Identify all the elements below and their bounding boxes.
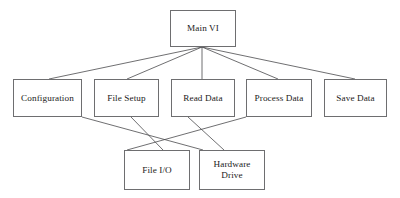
node-label-file-setup: File Setup <box>105 93 148 104</box>
node-configuration[interactable]: Configuration <box>13 79 82 117</box>
connector-process-data-to-file-io <box>127 117 246 150</box>
node-read-data[interactable]: Read Data <box>171 79 235 117</box>
node-file-setup[interactable]: File Setup <box>94 79 159 117</box>
node-label-file-io: File I/O <box>140 165 174 176</box>
node-hardware-drive[interactable]: Hardware Drive <box>199 150 265 190</box>
connector-main-vi-to-configuration <box>49 47 202 79</box>
node-save-data[interactable]: Save Data <box>324 79 387 117</box>
node-process-data[interactable]: Process Data <box>246 79 312 117</box>
node-main-vi[interactable]: Main VI <box>170 10 236 47</box>
connector-read-data-to-hardware-drive <box>188 117 224 150</box>
node-label-hardware-drive: Hardware Drive <box>211 159 252 181</box>
node-label-process-data: Process Data <box>253 93 306 104</box>
node-file-io[interactable]: File I/O <box>124 150 190 190</box>
node-label-save-data: Save Data <box>334 93 376 104</box>
connector-file-setup-to-file-io <box>131 117 163 150</box>
node-label-read-data: Read Data <box>181 93 224 104</box>
connector-main-vi-to-file-setup <box>127 47 202 79</box>
node-label-main-vi: Main VI <box>185 23 221 34</box>
connector-main-vi-to-process-data <box>202 47 278 79</box>
diagram-canvas: Main VIConfigurationFile SetupRead DataP… <box>0 0 400 198</box>
node-label-configuration: Configuration <box>19 93 76 104</box>
connector-configuration-to-hardware-drive <box>82 117 203 150</box>
connector-main-vi-to-save-data <box>202 47 355 79</box>
